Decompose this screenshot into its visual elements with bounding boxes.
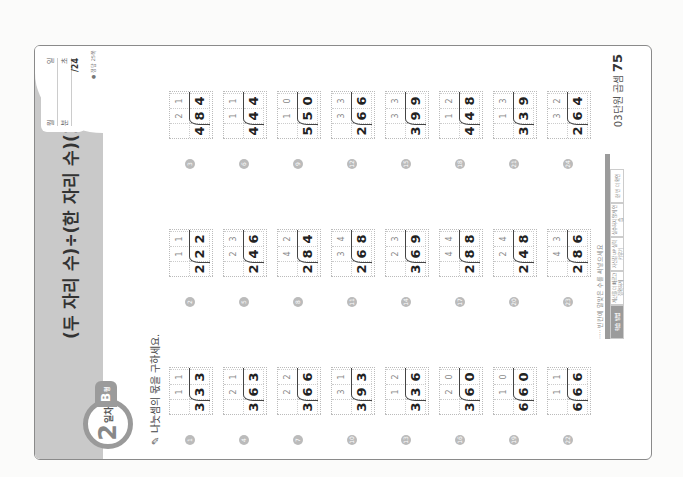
problem-item: 611444 bbox=[219, 45, 277, 169]
quotient-tens[interactable]: 2 bbox=[440, 384, 460, 399]
empty-cell bbox=[494, 123, 514, 138]
divisor: 2 bbox=[190, 261, 210, 276]
divisor: 4 bbox=[460, 123, 480, 138]
dividend-ones: 3 bbox=[244, 369, 264, 384]
quotient-tens[interactable]: 2 bbox=[170, 108, 190, 123]
empty-cell bbox=[332, 261, 352, 276]
problem-item: 2113339 bbox=[489, 45, 547, 169]
quotient-tens[interactable]: 1 bbox=[548, 384, 568, 399]
quotient-tens[interactable]: 3 bbox=[332, 384, 352, 399]
quotient-ones[interactable]: 2 bbox=[386, 369, 406, 384]
dividend-tens: 6 bbox=[244, 384, 264, 399]
quotient-tens[interactable]: 1 bbox=[278, 108, 298, 123]
footer-tab: 실수하지 않게 연습 bbox=[610, 203, 624, 237]
dividend-ones: 2 bbox=[190, 231, 210, 246]
quotient-ones[interactable]: 4 bbox=[440, 231, 460, 246]
quotient-tens[interactable]: 3 bbox=[332, 246, 352, 261]
quotient-ones[interactable]: 2 bbox=[278, 369, 298, 384]
type-suffix: 형 bbox=[102, 386, 111, 392]
dividend-ones: 0 bbox=[298, 93, 318, 108]
quotient-tens[interactable]: 4 bbox=[440, 246, 460, 261]
quotient-ones[interactable]: 4 bbox=[332, 231, 352, 246]
quotient-ones[interactable]: 3 bbox=[224, 231, 244, 246]
quotient-tens[interactable]: 2 bbox=[224, 246, 244, 261]
dividend-ones: 4 bbox=[298, 231, 318, 246]
dividend-ones: 8 bbox=[460, 93, 480, 108]
quotient-tens[interactable]: 3 bbox=[386, 108, 406, 123]
divisor: 3 bbox=[514, 123, 534, 138]
dividend-ones: 9 bbox=[514, 93, 534, 108]
quotient-ones[interactable]: 1 bbox=[170, 231, 190, 246]
quotient-tens[interactable]: 4 bbox=[548, 246, 568, 261]
problem-item: 1312336 bbox=[381, 315, 439, 445]
footer-tabs: 학습 방법 계산을 더 빠르고 정확하게 자신감 UP 실력 키우기 실수하지 … bbox=[610, 169, 624, 339]
problem-item: 1620360 bbox=[435, 315, 493, 445]
quotient-ones[interactable]: 0 bbox=[278, 93, 298, 108]
division-box: 10660 bbox=[493, 367, 537, 415]
dividend-tens: 2 bbox=[190, 246, 210, 261]
quotient-ones[interactable]: 1 bbox=[224, 93, 244, 108]
problem-number: 23 bbox=[563, 297, 573, 307]
problem-item: 1134268 bbox=[327, 177, 385, 307]
quotient-ones[interactable]: 3 bbox=[332, 93, 352, 108]
problem-item: 1423369 bbox=[381, 177, 439, 307]
quotient-ones[interactable]: 3 bbox=[386, 93, 406, 108]
problem-number: 11 bbox=[347, 297, 357, 307]
empty-cell bbox=[494, 261, 514, 276]
quotient-tens[interactable]: 1 bbox=[224, 108, 244, 123]
divisor: 6 bbox=[568, 399, 588, 414]
division-box: 23246 bbox=[223, 229, 267, 277]
quotient-tens[interactable]: 4 bbox=[278, 246, 298, 261]
dividend-tens: 8 bbox=[460, 246, 480, 261]
quotient-tens[interactable]: 1 bbox=[494, 384, 514, 399]
dividend-ones: 3 bbox=[190, 369, 210, 384]
quotient-tens[interactable]: 3 bbox=[548, 108, 568, 123]
dividend-ones: 9 bbox=[406, 231, 426, 246]
quotient-tens[interactable]: 3 bbox=[332, 108, 352, 123]
dividend-tens: 3 bbox=[406, 384, 426, 399]
quotient-ones[interactable]: 3 bbox=[386, 231, 406, 246]
divisor: 2 bbox=[298, 261, 318, 276]
workbook-page: (두 자리 수)÷(한 자리 수)(1) 월 일 분 초 /24 ● 정답 25… bbox=[34, 45, 652, 460]
dividend-ones: 8 bbox=[460, 231, 480, 246]
quotient-tens[interactable]: 2 bbox=[224, 384, 244, 399]
empty-cell bbox=[332, 399, 352, 414]
problem-number: 4 bbox=[239, 435, 249, 445]
quotient-ones[interactable]: 1 bbox=[224, 369, 244, 384]
divisor: 2 bbox=[568, 123, 588, 138]
quotient-ones[interactable]: 1 bbox=[332, 369, 352, 384]
dividend-tens: 4 bbox=[244, 246, 264, 261]
problem-item: 2432264 bbox=[543, 45, 601, 169]
dividend-ones: 6 bbox=[568, 369, 588, 384]
quotient-tens[interactable]: 1 bbox=[440, 108, 460, 123]
division-box: 21484 bbox=[169, 91, 213, 139]
quotient-tens[interactable]: 2 bbox=[494, 246, 514, 261]
problem-number: 13 bbox=[401, 435, 411, 445]
quotient-ones[interactable]: 2 bbox=[440, 93, 460, 108]
divisor: 3 bbox=[190, 399, 210, 414]
quotient-tens[interactable]: 2 bbox=[386, 246, 406, 261]
problem-item: 1233266 bbox=[327, 45, 385, 169]
problem-number: 8 bbox=[293, 297, 303, 307]
quotient-tens[interactable]: 1 bbox=[386, 384, 406, 399]
quotient-ones[interactable]: 0 bbox=[440, 369, 460, 384]
quotient-ones[interactable]: 1 bbox=[170, 93, 190, 108]
quotient-ones[interactable]: 3 bbox=[494, 93, 514, 108]
quotient-tens[interactable]: 1 bbox=[170, 246, 190, 261]
month-label: 월 bbox=[45, 120, 55, 126]
quotient-ones[interactable]: 1 bbox=[548, 369, 568, 384]
empty-cell bbox=[170, 123, 190, 138]
quotient-tens[interactable]: 2 bbox=[278, 384, 298, 399]
dividend-tens: 6 bbox=[514, 384, 534, 399]
empty-cell bbox=[386, 261, 406, 276]
quotient-ones[interactable]: 2 bbox=[548, 93, 568, 108]
page-number: 03단원 곱셈 75 bbox=[610, 54, 625, 127]
quotient-tens[interactable]: 1 bbox=[494, 108, 514, 123]
quotient-ones[interactable]: 4 bbox=[494, 231, 514, 246]
quotient-tens[interactable]: 1 bbox=[170, 384, 190, 399]
dividend-tens: 4 bbox=[244, 108, 264, 123]
quotient-ones[interactable]: 0 bbox=[494, 369, 514, 384]
quotient-ones[interactable]: 1 bbox=[170, 369, 190, 384]
quotient-ones[interactable]: 2 bbox=[278, 231, 298, 246]
quotient-ones[interactable]: 3 bbox=[548, 231, 568, 246]
